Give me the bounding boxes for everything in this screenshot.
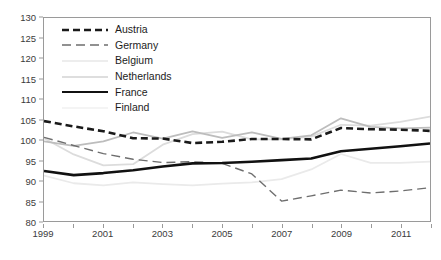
legend-item-belgium: Belgium xyxy=(62,53,172,69)
y-axis-tick-label: 125 xyxy=(20,33,36,42)
y-axis-tick-label: 90 xyxy=(25,177,36,186)
x-axis-tick-label: 1999 xyxy=(32,229,53,239)
legend-label: Netherlands xyxy=(115,71,172,82)
x-axis-tick-mark xyxy=(133,224,134,228)
legend-item-germany: Germany xyxy=(62,38,172,54)
legend-label: Belgium xyxy=(115,55,153,66)
x-axis-tick-label: 2003 xyxy=(152,229,173,239)
legend-swatch-france-icon xyxy=(62,87,108,97)
x-axis-tick-mark xyxy=(312,224,313,228)
x-axis-tick-mark xyxy=(192,224,193,228)
legend-label: France xyxy=(115,87,148,98)
legend-swatch-austria-icon xyxy=(62,25,108,35)
x-axis-tick-label: 2005 xyxy=(211,229,232,239)
legend-swatch-finland-icon xyxy=(62,103,108,113)
legend-swatch-germany-icon xyxy=(62,40,108,50)
y-axis-tick-label: 85 xyxy=(25,197,36,206)
x-axis-tick-label: 2001 xyxy=(92,229,113,239)
x-axis: 1999200120032005200720092011 xyxy=(0,224,441,254)
y-axis-tick-label: 120 xyxy=(20,54,36,63)
y-axis-tick-label: 105 xyxy=(20,115,36,124)
x-axis-tick-mark xyxy=(371,224,372,228)
x-axis-tick-mark xyxy=(431,224,432,228)
y-axis-tick-label: 95 xyxy=(25,156,36,165)
y-axis-tick-label: 115 xyxy=(21,74,36,83)
x-axis-tick-label: 2007 xyxy=(271,229,292,239)
legend-item-netherlands: Netherlands xyxy=(62,69,172,85)
legend-swatch-belgium-icon xyxy=(62,56,108,66)
series-line-finland xyxy=(44,154,430,185)
x-axis-tick-label: 2009 xyxy=(331,229,352,239)
series-line-france xyxy=(44,143,430,175)
series-line-austria xyxy=(44,121,430,143)
y-axis: 80859095100105110115120125130 xyxy=(0,0,43,260)
x-axis-tick-mark xyxy=(252,224,253,228)
y-axis-tick-label: 110 xyxy=(21,95,36,104)
series-line-germany xyxy=(44,137,430,201)
x-axis-tick-label: 2011 xyxy=(391,229,411,239)
y-axis-tick-label: 100 xyxy=(20,136,36,145)
legend-item-austria: Austria xyxy=(62,22,172,38)
line-chart: 80859095100105110115120125130 AustriaGer… xyxy=(0,0,441,260)
y-axis-tick-label: 130 xyxy=(20,13,36,22)
legend-label: Finland xyxy=(115,102,149,113)
legend-label: Germany xyxy=(115,40,158,51)
legend-item-finland: Finland xyxy=(62,100,172,116)
legend-swatch-netherlands-icon xyxy=(62,72,108,82)
legend-item-france: France xyxy=(62,84,172,100)
legend-label: Austria xyxy=(115,24,148,35)
x-axis-tick-mark xyxy=(73,224,74,228)
chart-legend: AustriaGermanyBelgiumNetherlandsFranceFi… xyxy=(62,22,172,116)
